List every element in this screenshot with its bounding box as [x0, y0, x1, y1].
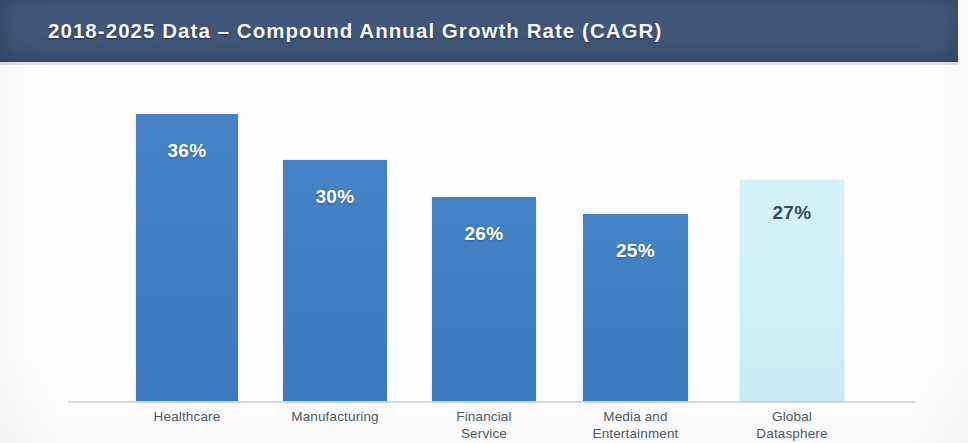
slide-canvas: 2018-2025 Data – Compound Annual Growth …	[0, 0, 968, 443]
page-title: 2018-2025 Data – Compound Annual Growth …	[48, 19, 662, 43]
bar-group-healthcare: 36% Healthcare	[136, 62, 238, 443]
x-tick-label-global-datasphere: Global Datasphere	[714, 409, 870, 442]
x-tick-label-line: Media and	[557, 409, 714, 426]
bar-group-financial-service: 26% Financial Service	[432, 62, 536, 443]
bar-media-and-entertainment[interactable]: 25%	[583, 214, 688, 401]
x-tick-label-line: Financial	[406, 409, 562, 426]
bar-value-healthcare: 36%	[136, 140, 238, 162]
bar-financial-service[interactable]: 26%	[432, 197, 536, 401]
x-tick-label-line: Manufacturing	[257, 409, 413, 426]
x-tick-label-line: Datasphere	[714, 426, 870, 443]
bar-global-datasphere[interactable]: 27%	[740, 180, 844, 401]
x-tick-label-line: Healthcare	[110, 409, 264, 426]
bar-group-global-datasphere: 27% Global Datasphere	[740, 62, 844, 443]
bar-value-global-datasphere: 27%	[740, 202, 844, 224]
bar-chart-plot-area: 36% Healthcare 30% Manufacturing 26% Fin…	[0, 62, 968, 443]
bar-value-manufacturing: 30%	[283, 186, 387, 208]
bar-manufacturing[interactable]: 30%	[283, 160, 387, 401]
x-tick-label-line: Service	[406, 426, 562, 443]
bar-value-media-and-entertainment: 25%	[583, 240, 688, 262]
bar-healthcare[interactable]: 36%	[136, 114, 238, 401]
x-tick-label-financial-service: Financial Service	[406, 409, 562, 442]
bar-group-media-and-entertainment: 25% Media and Entertainment	[583, 62, 688, 443]
title-band: 2018-2025 Data – Compound Annual Growth …	[0, 0, 958, 62]
x-tick-label-line: Global	[714, 409, 870, 426]
x-tick-label-healthcare: Healthcare	[110, 409, 264, 426]
bar-group-manufacturing: 30% Manufacturing	[283, 62, 387, 443]
bar-value-financial-service: 26%	[432, 223, 536, 245]
x-tick-label-line: Entertainment	[557, 426, 714, 443]
x-tick-label-media-and-entertainment: Media and Entertainment	[557, 409, 714, 442]
x-tick-label-manufacturing: Manufacturing	[257, 409, 413, 426]
